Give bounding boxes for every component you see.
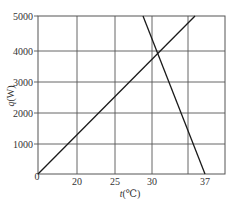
y-axis-label: q(W)	[5, 85, 17, 106]
y-tick-label: 3000	[13, 77, 33, 88]
y-tick-labels: 5000 4000 3000 2000 1000	[13, 11, 33, 150]
series-rising-line	[38, 16, 195, 174]
x-tick-label: 30	[147, 176, 157, 187]
x-tick-label: 20	[72, 176, 82, 187]
y-tick-label: 1000	[13, 139, 33, 150]
y-tick-label: 2000	[13, 108, 33, 119]
y-tick-label: 5000	[13, 11, 33, 22]
chart-canvas: 5000 4000 3000 2000 1000 0 20 25 30 37 t…	[0, 0, 234, 199]
x-axis-label: t(℃)	[120, 188, 141, 199]
x-tick-label: 25	[110, 176, 120, 187]
horizontal-gridlines	[38, 51, 225, 144]
y-tick-marks	[34, 16, 38, 144]
x-tick-label: 37	[200, 176, 210, 187]
plot-frame	[38, 16, 225, 174]
x-tick-labels: 0 20 25 30 37	[35, 171, 211, 187]
y-tick-label: 4000	[13, 46, 33, 57]
x-tick-label: 0	[35, 171, 40, 182]
